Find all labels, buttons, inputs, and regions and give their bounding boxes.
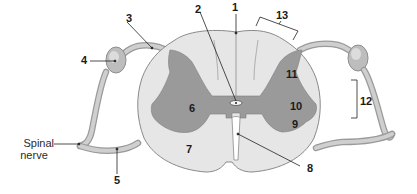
label-8: 8	[307, 163, 313, 174]
label-3: 3	[126, 13, 132, 24]
label-9: 9	[292, 119, 298, 130]
label-6: 6	[189, 103, 195, 114]
label-2: 2	[195, 4, 201, 15]
label-13: 13	[276, 10, 288, 21]
label-12: 12	[360, 96, 372, 107]
label-10: 10	[290, 101, 302, 112]
spinal-cord-diagram	[0, 0, 417, 194]
spinal-nerve-label-line1: Spinal	[14, 137, 54, 149]
label-7: 7	[186, 144, 192, 155]
spinal-nerve-label: Spinal nerve	[14, 137, 54, 161]
label-1: 1	[232, 2, 238, 13]
label-4: 4	[81, 55, 87, 66]
label-11: 11	[286, 69, 298, 80]
label-5: 5	[114, 175, 120, 186]
spinal-nerve-label-line2: nerve	[14, 149, 54, 161]
